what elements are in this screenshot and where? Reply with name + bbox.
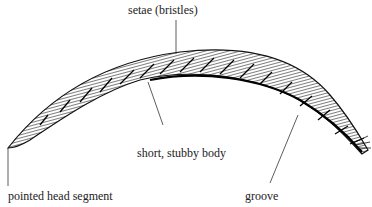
head-label: pointed head segment [8, 190, 113, 202]
groove-leader-line [270, 115, 298, 183]
worm-body [8, 50, 368, 154]
body-leader-line [148, 82, 163, 125]
groove-label: groove [245, 190, 278, 202]
setae-label: setae (bristles) [128, 4, 198, 16]
worm-illustration [0, 0, 372, 207]
body-label: short, stubby body [137, 147, 226, 159]
